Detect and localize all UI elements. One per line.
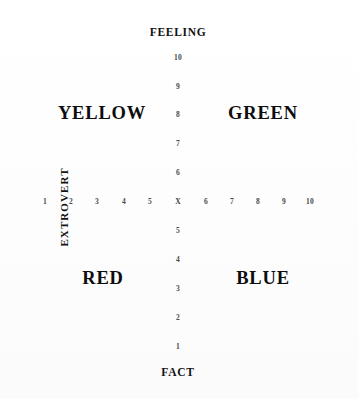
x-tick-4: 4 bbox=[122, 197, 126, 206]
diagram-canvas: FEELING 10 9 8 7 6 X 5 4 3 2 1 FACT EXTR… bbox=[0, 0, 358, 399]
y-tick-4: 4 bbox=[176, 255, 180, 264]
x-tick-10: 10 bbox=[306, 197, 314, 206]
y-tick-6: 6 bbox=[176, 168, 180, 177]
quadrant-label-green: GREEN bbox=[228, 103, 298, 124]
x-tick-7: 7 bbox=[230, 197, 234, 206]
y-tick-3: 3 bbox=[176, 284, 180, 293]
y-tick-5: 5 bbox=[176, 226, 180, 235]
x-tick-9: 9 bbox=[282, 197, 286, 206]
y-tick-9: 9 bbox=[176, 82, 180, 91]
x-tick-3: 3 bbox=[95, 197, 99, 206]
x-tick-1: 1 bbox=[43, 197, 47, 206]
x-tick-2: 2 bbox=[69, 197, 73, 206]
quadrant-label-blue: BLUE bbox=[236, 268, 290, 289]
y-tick-1: 1 bbox=[176, 342, 180, 351]
x-tick-5: 5 bbox=[148, 197, 152, 206]
axis-top-pole-label: FEELING bbox=[150, 26, 207, 38]
axis-bottom-pole-label: FACT bbox=[161, 366, 194, 378]
y-tick-2: 2 bbox=[176, 313, 180, 322]
x-tick-6: 6 bbox=[204, 197, 208, 206]
y-tick-8: 8 bbox=[176, 110, 180, 119]
y-tick-10: 10 bbox=[174, 53, 182, 62]
axis-origin-marker: X bbox=[175, 197, 181, 206]
axis-left-pole-label: EXTROVERT bbox=[58, 167, 70, 246]
x-tick-8: 8 bbox=[256, 197, 260, 206]
quadrant-label-yellow: YELLOW bbox=[58, 103, 146, 124]
y-tick-7: 7 bbox=[176, 139, 180, 148]
quadrant-label-red: RED bbox=[82, 268, 123, 289]
